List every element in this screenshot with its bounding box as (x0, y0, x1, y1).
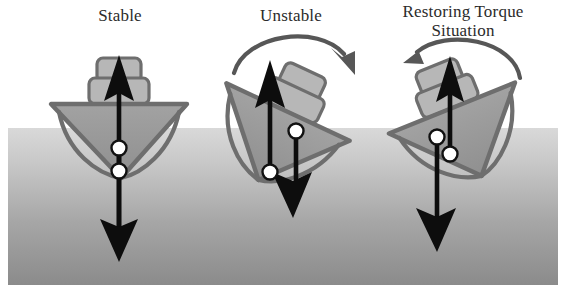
center-of-buoyancy-dot-restoring (443, 147, 458, 162)
panel-label-unstable: Unstable (226, 6, 356, 25)
center-of-gravity-dot-stable (112, 141, 127, 156)
center-of-gravity-dot-restoring (430, 130, 445, 145)
diagram-canvas (0, 0, 567, 292)
panel-label-restoring-torque: Restoring TorqueSituation (373, 2, 553, 40)
panel-label-restoring-line-2: Situation (431, 21, 494, 40)
stability-diagram: Stable Unstable Restoring TorqueSituatio… (0, 0, 567, 292)
center-of-buoyancy-dot-stable (112, 164, 127, 179)
panel-label-restoring-line-1: Restoring Torque (402, 2, 523, 21)
panel-label-stable: Stable (60, 6, 180, 25)
center-of-buoyancy-dot-unstable (263, 165, 278, 180)
center-of-gravity-dot-unstable (289, 124, 304, 139)
